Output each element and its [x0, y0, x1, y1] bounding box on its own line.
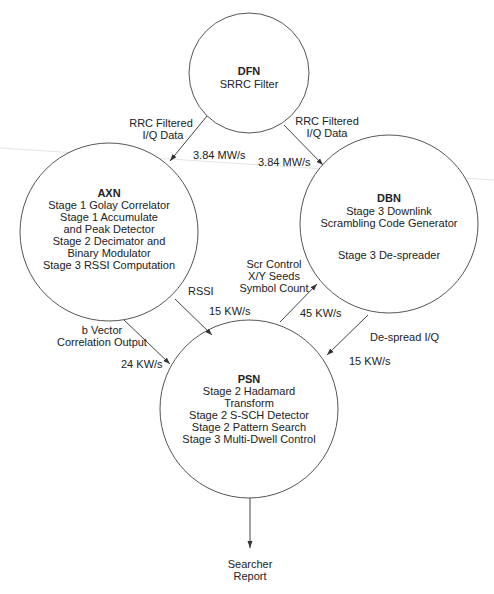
node-dbn-function: Stage 3 Downlink: [346, 205, 432, 217]
node-axn-function: Stage 3 RSSI Computation: [43, 259, 175, 271]
node-psn-function: Stage 2 S-SCH Detector: [189, 409, 309, 421]
node-dbn-function: Stage 3 De-spreader: [338, 249, 440, 261]
node-dfn: DFN SRRC Filter: [189, 13, 309, 133]
edge-dfn-dbn-label: I/Q Data: [307, 127, 349, 139]
edge-psn-dbn-control-label: Symbol Count: [239, 282, 308, 294]
edge-axn-psn-bvector-rate: 24 KW/s: [121, 358, 163, 370]
node-dfn-function: SRRC Filter: [220, 78, 279, 90]
node-psn-function: Transform: [224, 397, 274, 409]
node-psn-function: Stage 2 Hadamard: [203, 385, 295, 397]
edge-dfn-axn-label: RRC Filtered: [129, 117, 193, 129]
edge-dbn-to-psn-despread: [327, 315, 368, 355]
edge-dbn-psn-despread-label: De-spread I/Q: [370, 331, 440, 343]
node-psn-function: Stage 2 Pattern Search: [192, 421, 306, 433]
edge-dfn-axn-label: I/Q Data: [143, 129, 185, 141]
node-axn-function: Binary Modulator: [67, 247, 150, 259]
node-psn: PSN Stage 2 Hadamard Transform Stage 2 S…: [160, 320, 338, 498]
edge-dfn-dbn-label: RRC Filtered: [295, 115, 359, 127]
edge-psn-dbn-control-label: X/Y Seeds: [248, 270, 300, 282]
output-searcher-report-label: Report: [233, 570, 266, 582]
edge-dfn-dbn-rate: 3.84 MW/s: [258, 156, 311, 168]
node-axn-title: AXN: [97, 187, 120, 199]
node-psn-function: Stage 3 Multi-Dwell Control: [182, 433, 315, 445]
edge-axn-psn-rssi-label: RSSI: [188, 285, 214, 297]
edge-axn-psn-rssi-rate: 15 KW/s: [209, 305, 251, 317]
node-dbn: DBN Stage 3 Downlink Scrambling Code Gen…: [300, 135, 478, 313]
node-dbn-function: Scrambling Code Generator: [321, 217, 458, 229]
node-axn: AXN Stage 1 Golay Correlator Stage 1 Acc…: [20, 143, 198, 321]
edge-psn-dbn-control-label: Scr Control: [246, 258, 301, 270]
edge-axn-psn-bvector-label: Correlation Output: [57, 336, 147, 348]
node-axn-function: and Peak Detector: [63, 223, 154, 235]
node-axn-function: Stage 2 Decimator and: [53, 235, 166, 247]
edge-dbn-psn-despread-rate: 15 KW/s: [349, 355, 391, 367]
node-axn-function: Stage 1 Golay Correlator: [48, 199, 170, 211]
node-psn-title: PSN: [238, 373, 261, 385]
dataflow-diagram: DFN SRRC Filter AXN Stage 1 Golay Correl…: [0, 0, 494, 594]
output-searcher-report-label: Searcher: [228, 558, 273, 570]
node-axn-function: Stage 1 Accumulate: [60, 211, 158, 223]
node-dfn-title: DFN: [238, 65, 261, 77]
edge-axn-psn-bvector-label: b Vector: [82, 324, 123, 336]
edge-dfn-axn-rate: 3.84 MW/s: [193, 149, 246, 161]
edge-axn-to-psn-rssi: [175, 299, 212, 335]
node-dbn-title: DBN: [377, 192, 401, 204]
edge-psn-dbn-control-rate: 45 KW/s: [300, 307, 342, 319]
